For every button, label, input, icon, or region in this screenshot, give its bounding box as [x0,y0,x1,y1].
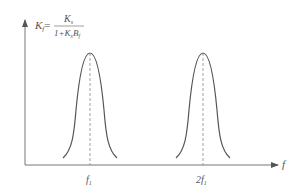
tick-label-2f1: 2f1 [196,174,207,186]
x-axis-label: f [282,158,287,170]
diagram-canvas: Kf= Ks 1+KsBf f f1 2f1 [0,0,302,193]
svg-text:Ks: Ks [63,13,74,25]
tick-label-f1: f1 [86,174,92,186]
formula: Kf= Ks 1+KsBf [34,13,84,39]
svg-text:Kf=: Kf= [34,19,51,33]
svg-text:1+KsBf: 1+KsBf [54,28,81,39]
